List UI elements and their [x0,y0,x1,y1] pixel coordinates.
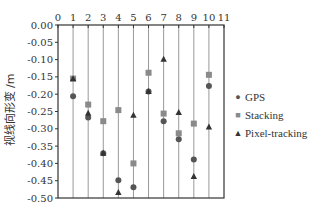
pixel-tracking-point [160,56,166,62]
square-icon: ■ [233,106,243,124]
stacking-point [191,121,197,127]
y-tick-label: -0.45 [27,175,53,186]
gps-point [176,136,182,142]
stacking-point [115,107,121,113]
legend-item-stacking: ■ Stacking [233,106,307,124]
y-axis-label: 视线向形变 /m [2,60,16,160]
legend-item-gps: ● GPS [233,88,307,106]
gps-point [130,184,136,190]
gps-point [191,157,197,163]
gps-point [206,83,212,89]
x-tick-label: 5 [130,12,136,23]
legend-label: Pixel-tracking [245,124,307,142]
pixel-tracking-point [130,112,136,118]
x-tick-label: 7 [160,12,166,23]
y-tick-label: -0.50 [27,193,53,204]
y-tick-label: -0.25 [27,106,53,117]
legend-label: GPS [245,88,265,106]
gps-point [115,177,121,183]
pixel-tracking-point [176,109,182,115]
y-tick-label: -0.05 [27,37,53,48]
stacking-point [85,102,91,108]
stacking-point [176,130,182,136]
stacking-point [161,111,167,117]
x-tick-label: 6 [145,12,151,23]
legend-item-pixel-tracking: ▲ Pixel-tracking [233,124,307,142]
legend-label: Stacking [245,106,284,124]
x-tick-label: 0 [55,12,61,23]
plot-frame [58,25,224,198]
stacking-point [146,70,152,76]
y-tick-label: -0.20 [27,89,53,100]
y-tick-label: -0.15 [27,71,53,82]
y-axis-label-text: 视线向形变 /m [1,74,17,147]
pixel-tracking-point [191,173,197,179]
triangle-icon: ▲ [233,124,243,142]
x-tick-label: 10 [203,12,216,23]
x-tick-label: 3 [100,12,106,23]
legend: ● GPS ■ Stacking ▲ Pixel-tracking [233,88,307,142]
y-tick-label: -0.35 [27,141,53,152]
x-tick-label: 11 [218,12,231,23]
y-tick-label: -0.30 [27,123,53,134]
x-tick-label: 9 [191,12,197,23]
x-tick-label: 2 [85,12,91,23]
y-tick-label: -0.10 [27,54,53,65]
stacking-point [130,160,136,166]
gps-point [161,118,167,124]
y-tick-label: 0.00 [31,20,53,31]
y-tick-label: -0.40 [27,158,53,169]
gps-point [70,93,76,99]
stacking-point [100,118,106,124]
pixel-tracking-point [115,189,121,195]
circle-icon: ● [233,88,243,106]
pixel-tracking-point [206,124,212,130]
x-tick-label: 4 [115,12,121,23]
x-tick-label: 1 [70,12,76,23]
x-tick-label: 8 [176,12,182,23]
pixel-tracking-point [85,110,91,116]
stacking-point [206,72,212,78]
